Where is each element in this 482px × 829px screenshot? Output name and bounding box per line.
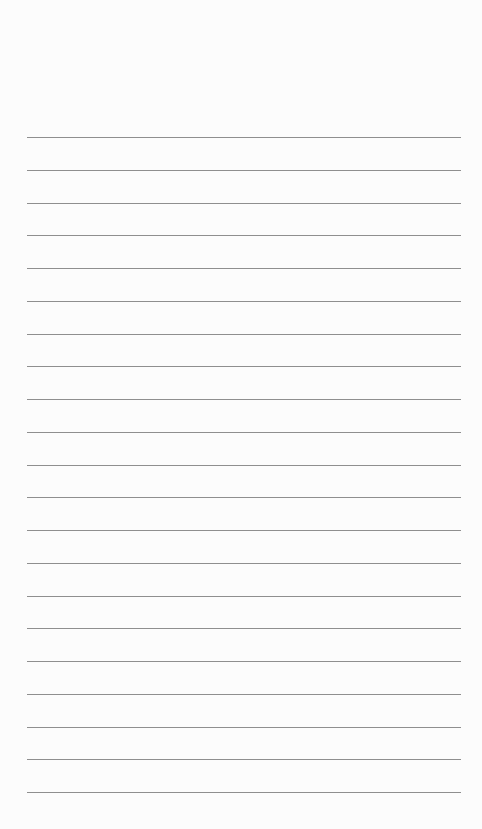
ruled-line xyxy=(27,563,461,564)
ruled-line xyxy=(27,759,461,760)
ruled-line xyxy=(27,694,461,695)
ruled-line xyxy=(27,366,461,367)
ruled-line xyxy=(27,530,461,531)
ruled-line xyxy=(27,792,461,793)
ruled-line xyxy=(27,203,461,204)
ruled-line xyxy=(27,727,461,728)
ruled-line xyxy=(27,235,461,236)
lined-paper-page xyxy=(0,0,482,829)
ruled-line xyxy=(27,334,461,335)
ruled-line xyxy=(27,497,461,498)
ruled-line xyxy=(27,170,461,171)
ruled-line xyxy=(27,465,461,466)
ruled-line xyxy=(27,661,461,662)
ruled-line xyxy=(27,137,461,138)
ruled-line xyxy=(27,399,461,400)
ruled-line xyxy=(27,432,461,433)
ruled-line xyxy=(27,268,461,269)
ruled-line xyxy=(27,301,461,302)
ruled-line xyxy=(27,628,461,629)
ruled-line xyxy=(27,596,461,597)
